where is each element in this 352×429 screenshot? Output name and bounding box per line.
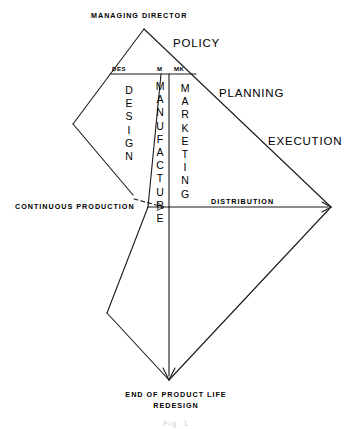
band-letter: E bbox=[125, 97, 132, 110]
edge-lower-left-to-bottom-vertex bbox=[107, 313, 169, 380]
band-letter: R bbox=[156, 199, 164, 212]
band-letter: F bbox=[157, 133, 163, 146]
band-letter: N bbox=[125, 150, 133, 163]
band-letter: C bbox=[156, 159, 164, 172]
band-letter: I bbox=[184, 161, 187, 174]
label-policy: POLICY bbox=[173, 38, 220, 50]
band-label-design: D E S I G N bbox=[122, 84, 136, 163]
band-letter: M bbox=[181, 82, 190, 95]
band-letter: S bbox=[125, 110, 132, 123]
label-continuous-production: CONTINUOUS PRODUCTION bbox=[15, 203, 135, 210]
band-letter: E bbox=[156, 212, 163, 225]
band-letter: I bbox=[128, 124, 131, 137]
band-letter: A bbox=[156, 93, 163, 106]
band-letter: U bbox=[156, 186, 164, 199]
band-letter: N bbox=[156, 106, 164, 119]
band-letter: D bbox=[125, 84, 133, 97]
label-redesign: REDESIGN bbox=[0, 402, 352, 409]
band-letter: E bbox=[181, 135, 188, 148]
band-label-marketing: M A R K E T I N G bbox=[178, 82, 192, 201]
label-planning: PLANNING bbox=[219, 88, 284, 100]
edge-policy-planning-execution bbox=[144, 29, 331, 207]
band-letter: T bbox=[157, 172, 163, 185]
label-tag-marketing: MK bbox=[174, 66, 185, 72]
diagram-svg bbox=[0, 0, 352, 429]
figure-caption: Fig. 1 bbox=[0, 419, 352, 428]
label-tag-design: DES bbox=[112, 66, 126, 72]
figure-canvas: MANAGING DIRECTOR POLICY PLANNING EXECUT… bbox=[0, 0, 352, 429]
band-letter: M bbox=[156, 80, 165, 93]
band-letter: G bbox=[181, 188, 189, 201]
band-letter: G bbox=[125, 137, 133, 150]
band-letter: R bbox=[181, 108, 189, 121]
edge-manufacture-to-lower-left-vertex bbox=[107, 207, 148, 313]
band-letter: N bbox=[181, 174, 189, 187]
band-letter: U bbox=[156, 120, 164, 133]
label-execution: EXECUTION bbox=[268, 136, 342, 148]
band-letter: A bbox=[181, 95, 188, 108]
label-managing-director: MANAGING DIRECTOR bbox=[91, 12, 187, 19]
label-end-of-product-life: END OF PRODUCT LIFE bbox=[0, 391, 352, 398]
label-tag-manufacture: M bbox=[157, 66, 163, 72]
label-distribution: DISTRIBUTION bbox=[211, 198, 274, 205]
band-letter: A bbox=[156, 146, 163, 159]
edge-execution-to-end-of-life bbox=[169, 207, 331, 380]
band-letter: T bbox=[182, 148, 188, 161]
band-label-manufacture: M A N U F A C T U R E bbox=[153, 80, 167, 225]
band-letter: K bbox=[181, 122, 188, 135]
